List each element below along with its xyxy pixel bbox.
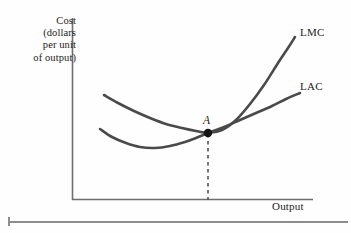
x-axis-label: Output (272, 200, 304, 212)
lac-curve-label: LAC (300, 80, 323, 92)
lac-curve (100, 93, 300, 148)
point-a-label: A (203, 114, 210, 126)
cost-curves-figure: Cost (dollars per unit of output) Output… (0, 0, 351, 233)
y-axis-label: Cost (dollars per unit of output) (8, 15, 76, 64)
lmc-curve (104, 37, 295, 133)
page-rule-tick (8, 217, 10, 226)
point-a-marker (204, 129, 212, 137)
page-rule (8, 221, 348, 223)
lmc-curve-label: LMC (300, 26, 325, 38)
